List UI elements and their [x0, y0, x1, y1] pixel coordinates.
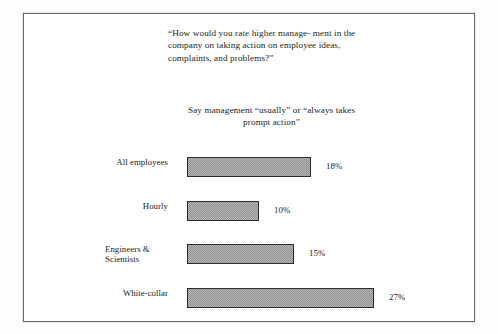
bar-rect[interactable]: [187, 288, 374, 308]
bar-value-label: 15%: [309, 248, 325, 258]
bar-value-label: 27%: [389, 292, 405, 302]
bar-row: All employees 18%: [24, 157, 476, 181]
bar-rect[interactable]: [187, 201, 259, 221]
bar-category-label: All employees: [48, 157, 168, 167]
bar-row: Hourly 10%: [24, 201, 476, 225]
bar-rect[interactable]: [187, 157, 311, 177]
bar-category-label: White-collar: [48, 288, 168, 298]
bar-rect[interactable]: [187, 244, 294, 264]
bar-chart-plot-area: All employees 18% Hourly 10% Engineers &…: [24, 14, 476, 323]
bar-value-label: 18%: [326, 161, 342, 171]
bar-category-label: Hourly: [48, 201, 168, 211]
bar-value-label: 10%: [274, 205, 290, 215]
scanned-page: “How would you rate higher manage- ment …: [0, 0, 498, 334]
figure-frame: “How would you rate higher manage- ment …: [23, 13, 475, 322]
bar-row: White-collar 27%: [24, 288, 476, 312]
bar-row: Engineers & Scientists 15%: [24, 244, 476, 268]
